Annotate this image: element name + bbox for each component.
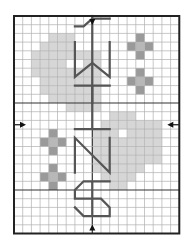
heart-cell	[40, 51, 49, 60]
heart-cell	[66, 33, 75, 42]
heart-cell	[75, 86, 84, 95]
cross-center	[49, 173, 58, 182]
heart-cell	[118, 173, 127, 182]
heart-cell	[110, 181, 119, 190]
heart-cell	[40, 42, 49, 51]
heart-cell	[92, 86, 101, 95]
heart-cell	[110, 147, 119, 156]
heart-cell	[118, 164, 127, 173]
heart-cell	[40, 86, 49, 95]
heart-cell	[58, 68, 67, 77]
heart-cell	[101, 138, 110, 147]
heart-cell	[49, 94, 58, 103]
gap-cell	[66, 60, 75, 69]
heart-cell	[110, 120, 119, 129]
heart-cell	[84, 86, 93, 95]
cross-center	[136, 42, 145, 51]
heart-cell	[110, 129, 119, 138]
heart-cell	[49, 86, 58, 95]
cross-arm	[49, 181, 58, 190]
heart-cell	[153, 120, 162, 129]
heart-cell	[127, 164, 136, 173]
cross-arm	[136, 51, 145, 60]
heart-cell	[40, 68, 49, 77]
cross-arm	[145, 42, 154, 51]
heart-cell	[75, 103, 84, 112]
cross-arm	[127, 42, 136, 51]
heart-cell	[127, 120, 136, 129]
heart-cell	[145, 120, 154, 129]
heart-cell	[31, 51, 40, 60]
heart-cell	[66, 42, 75, 51]
heart-cell	[66, 68, 75, 77]
heart-cell	[145, 138, 154, 147]
heart-cell	[31, 68, 40, 77]
heart-cell	[136, 138, 145, 147]
heart-cell	[118, 138, 127, 147]
heart-cell	[40, 60, 49, 69]
heart-cell	[49, 51, 58, 60]
heart-cell	[101, 129, 110, 138]
heart-cell	[118, 147, 127, 156]
heart-cell	[92, 94, 101, 103]
heart-cell	[49, 60, 58, 69]
heart-cell	[58, 86, 67, 95]
heart-cell	[49, 77, 58, 86]
heart-cell	[145, 129, 154, 138]
cross-stitch-chart	[0, 0, 192, 248]
heart-cell	[58, 33, 67, 42]
cross-arm	[40, 138, 49, 147]
heart-cell	[92, 51, 101, 60]
heart-cell	[118, 155, 127, 164]
heart-cell	[31, 60, 40, 69]
cross-center	[49, 138, 58, 147]
heart-cell	[118, 181, 127, 190]
heart-cell	[66, 103, 75, 112]
cross-arm	[136, 68, 145, 77]
arrow-down-icon	[89, 19, 95, 25]
heart-cell	[118, 112, 127, 121]
heart-cell	[145, 147, 154, 156]
cross-arm	[145, 77, 154, 86]
heart-cell	[58, 51, 67, 60]
heart-cell	[110, 138, 119, 147]
heart-cell	[136, 155, 145, 164]
heart-cell	[153, 155, 162, 164]
cross-arm	[58, 173, 67, 182]
gap-cell	[75, 60, 84, 69]
cross-arm	[127, 77, 136, 86]
heart-cell	[58, 94, 67, 103]
cross-arm	[49, 147, 58, 156]
heart-cell	[145, 155, 154, 164]
heart-cell	[101, 173, 110, 182]
heart-cell	[92, 129, 101, 138]
heart-cell	[49, 33, 58, 42]
heart-cell	[101, 147, 110, 156]
heart-cell	[84, 94, 93, 103]
heart-cell	[110, 155, 119, 164]
heart-cell	[84, 51, 93, 60]
heart-cell	[92, 164, 101, 173]
heart-cell	[153, 138, 162, 147]
heart-cell	[127, 129, 136, 138]
heart-cell	[92, 147, 101, 156]
cross-arm	[49, 164, 58, 173]
heart-cell	[58, 77, 67, 86]
heart-cell	[136, 120, 145, 129]
heart-cell	[92, 77, 101, 86]
heart-cell	[136, 164, 145, 173]
heart-cell	[40, 77, 49, 86]
cross-arm	[136, 33, 145, 42]
heart-cell	[75, 77, 84, 86]
heart-cell	[75, 94, 84, 103]
heart-cell	[66, 77, 75, 86]
heart-cell	[153, 129, 162, 138]
heart-cell	[110, 164, 119, 173]
heart-cell	[92, 138, 101, 147]
heart-cell	[127, 155, 136, 164]
heart-cell	[66, 94, 75, 103]
backstitch-letters	[75, 16, 110, 216]
cross-arm	[136, 86, 145, 95]
heart-cell	[66, 51, 75, 60]
heart-cell	[110, 173, 119, 182]
